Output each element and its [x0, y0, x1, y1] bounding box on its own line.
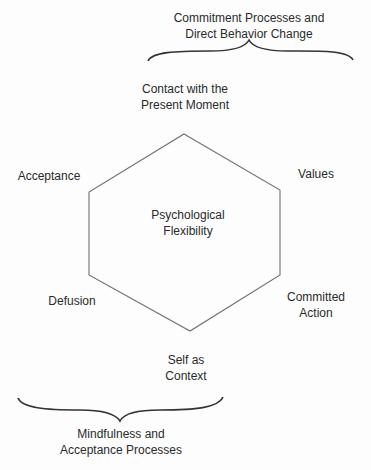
node-self-as-context: Self as Context	[165, 352, 206, 384]
node-label-line: Contact with the	[141, 81, 229, 97]
center-label-line: Psychological	[151, 207, 224, 223]
center-label-line: Flexibility	[151, 223, 224, 239]
group-label-mindfulness: Mindfulness and Acceptance Processes	[60, 426, 182, 458]
group-label-line: Mindfulness and	[60, 426, 182, 442]
top-brace-icon	[148, 40, 353, 61]
group-label-line: Commitment Processes and	[174, 10, 325, 26]
node-label-line: Context	[165, 368, 206, 384]
node-present-moment: Contact with the Present Moment	[141, 81, 229, 113]
node-label-line: Values	[298, 166, 334, 182]
node-values: Values	[298, 166, 334, 182]
node-label-line: Action	[287, 305, 345, 321]
node-label-line: Self as	[165, 352, 206, 368]
hexaflex-diagram: Commitment Processes and Direct Behavior…	[0, 0, 371, 470]
node-label-line: Acceptance	[18, 168, 81, 184]
bottom-brace-icon	[18, 397, 223, 421]
node-label-line: Committed	[287, 289, 345, 305]
center-label: Psychological Flexibility	[151, 207, 224, 239]
node-acceptance: Acceptance	[18, 168, 81, 184]
node-committed-action: Committed Action	[287, 289, 345, 321]
group-label-commitment: Commitment Processes and Direct Behavior…	[174, 10, 325, 42]
group-label-line: Direct Behavior Change	[174, 26, 325, 42]
node-label-line: Defusion	[48, 293, 95, 309]
node-defusion: Defusion	[48, 293, 95, 309]
node-label-line: Present Moment	[141, 97, 229, 113]
group-label-line: Acceptance Processes	[60, 442, 182, 458]
